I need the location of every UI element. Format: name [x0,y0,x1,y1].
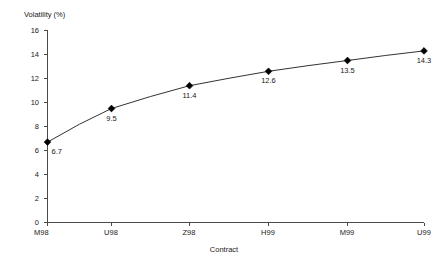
x-axis-ticks [48,223,425,227]
data-point-label-h99: 12.6 [261,76,276,85]
y-tick-label-4: 4 [35,170,39,179]
data-point-marker-u98 [108,105,115,112]
series-markers-group [44,48,427,146]
y-tick-label-14: 14 [31,50,39,59]
y-tick-label-0: 0 [35,218,39,227]
y-tick-label-16: 16 [31,26,39,35]
volatility-line-chart: Volatility (%) 16 14 12 10 8 6 4 2 0 [0,0,443,262]
data-point-label-m98: 6.7 [52,147,62,156]
x-axis-title: Contract [210,245,239,254]
x-tick-label-z98: Z98 [183,228,196,237]
y-tick-label-12: 12 [31,74,39,83]
x-tick-label-h99: H99 [261,228,275,237]
y-tick-label-6: 6 [35,146,39,155]
x-tick-label-u98: U98 [104,228,118,237]
data-point-marker-m99 [344,57,351,64]
data-point-label-u99: 14.3 [417,56,432,65]
series-point-labels-group: 6.79.511.412.613.514.3 [52,56,432,156]
y-tick-label-2: 2 [35,194,39,203]
y-tick-label-10: 10 [31,98,39,107]
x-tick-label-m99: M99 [340,228,355,237]
x-tick-label-m98: M98 [34,228,49,237]
y-axis-ticks [44,31,48,223]
data-point-marker-z98 [186,82,193,89]
chart-plot-area: Volatility (%) 16 14 12 10 8 6 4 2 0 [0,0,443,262]
data-point-marker-h99 [265,68,272,75]
data-point-label-z98: 11.4 [182,91,196,100]
series-line-volatility [48,51,425,142]
y-tick-label-8: 8 [35,122,39,131]
x-tick-label-u99: U99 [417,228,431,237]
data-point-label-u98: 9.5 [106,114,116,123]
data-point-marker-u99 [421,48,428,55]
y-axis-title: Volatility (%) [24,10,66,19]
data-point-label-m99: 13.5 [340,66,355,75]
data-point-marker-m98 [44,139,51,146]
